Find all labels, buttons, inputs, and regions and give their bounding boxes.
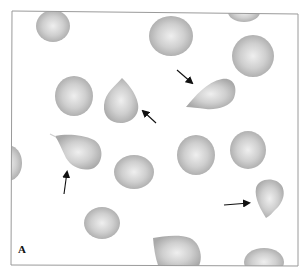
round-cell [84, 207, 120, 239]
teardrop-cell [256, 179, 284, 218]
blood-smear-illustration [0, 0, 305, 277]
round-cell [36, 10, 70, 42]
round-cell [230, 131, 266, 169]
teardrop-cell [50, 134, 56, 137]
teardrop-cell [153, 236, 201, 270]
round-cell [244, 248, 284, 276]
round-cell [114, 155, 154, 189]
round-cell [232, 35, 274, 77]
teardrop-cell [55, 135, 102, 170]
arrow-icon [64, 172, 67, 194]
arrow-icon [143, 111, 156, 123]
round-cell [149, 16, 193, 56]
arrow-icon [177, 70, 192, 83]
arrow-icon [224, 203, 249, 205]
cells-layer [0, 2, 284, 276]
teardrop-cell [104, 78, 138, 123]
panel-label: A [18, 243, 26, 255]
round-cell [55, 76, 93, 116]
round-cell [177, 135, 215, 175]
figure-panel: A [0, 0, 305, 277]
teardrop-cell [186, 79, 236, 109]
round-cell [228, 2, 260, 22]
